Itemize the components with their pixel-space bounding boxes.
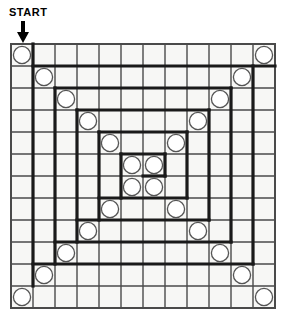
grid-circle-token[interactable] [211,244,228,261]
grid-cell[interactable] [209,176,231,198]
grid-circle-token[interactable] [255,46,272,63]
grid-cell[interactable] [165,110,187,132]
grid-cell[interactable] [121,88,143,110]
grid-cell[interactable] [143,286,165,308]
grid-cell[interactable] [33,110,55,132]
grid-circle-token[interactable] [189,112,206,129]
grid-cell[interactable] [187,242,209,264]
grid-circle-token[interactable] [167,200,184,217]
grid-cell[interactable] [77,286,99,308]
grid-cell[interactable] [55,44,77,66]
grid-circle-token[interactable] [211,90,228,107]
grid-cell[interactable] [209,66,231,88]
grid-cell[interactable] [121,66,143,88]
grid-cell[interactable] [253,132,275,154]
grid-cell[interactable] [55,110,77,132]
grid-cell[interactable] [99,44,121,66]
grid-cell[interactable] [143,198,165,220]
grid-cell[interactable] [33,154,55,176]
grid-cell[interactable] [187,264,209,286]
grid-cell[interactable] [99,220,121,242]
grid-cell[interactable] [55,264,77,286]
grid-cell[interactable] [55,286,77,308]
grid-cell[interactable] [209,154,231,176]
grid-cell[interactable] [165,220,187,242]
grid-circle-token[interactable] [167,134,184,151]
grid-cell[interactable] [99,286,121,308]
grid-circle-token[interactable] [123,156,140,173]
grid-circle-token[interactable] [145,178,162,195]
grid-cell[interactable] [187,154,209,176]
grid-cell[interactable] [231,154,253,176]
grid-circle-token[interactable] [101,134,118,151]
grid-cell[interactable] [165,88,187,110]
grid-cell[interactable] [143,110,165,132]
grid-cell[interactable] [121,286,143,308]
grid-cell[interactable] [253,88,275,110]
grid-cell[interactable] [33,242,55,264]
grid-cell[interactable] [187,198,209,220]
grid-circle-token[interactable] [35,68,52,85]
grid-cell[interactable] [121,198,143,220]
grid-circle-token[interactable] [101,200,118,217]
grid-cell[interactable] [99,242,121,264]
grid-cell[interactable] [187,286,209,308]
grid-cell[interactable] [165,66,187,88]
grid-cell[interactable] [231,176,253,198]
grid-cell[interactable] [253,154,275,176]
grid-cell[interactable] [143,132,165,154]
grid-cell[interactable] [253,264,275,286]
grid-cell[interactable] [121,242,143,264]
grid-cell[interactable] [231,220,253,242]
grid-cell[interactable] [143,264,165,286]
grid-cell[interactable] [55,176,77,198]
grid-circle-token[interactable] [13,288,30,305]
grid-cell[interactable] [231,88,253,110]
grid-circle-token[interactable] [145,156,162,173]
grid-cell[interactable] [11,176,33,198]
grid-cell[interactable] [33,286,55,308]
grid-cell[interactable] [77,66,99,88]
grid-circle-token[interactable] [57,244,74,261]
grid-circle-token[interactable] [233,266,250,283]
grid-circle-token[interactable] [79,112,96,129]
grid-cell[interactable] [231,44,253,66]
grid-cell[interactable] [143,44,165,66]
grid-cell[interactable] [77,264,99,286]
grid-cell[interactable] [121,132,143,154]
grid-cell[interactable] [231,242,253,264]
grid-cell[interactable] [11,242,33,264]
grid-cell[interactable] [55,66,77,88]
grid-cell[interactable] [165,242,187,264]
grid-cell[interactable] [99,88,121,110]
grid-cell[interactable] [55,220,77,242]
grid-cell[interactable] [55,154,77,176]
grid-cell[interactable] [253,66,275,88]
grid-cell[interactable] [99,110,121,132]
grid-cell[interactable] [77,176,99,198]
grid-cell[interactable] [231,198,253,220]
grid-cell[interactable] [11,110,33,132]
grid-cell[interactable] [231,132,253,154]
grid-cell[interactable] [187,44,209,66]
grid-cell[interactable] [33,176,55,198]
grid-cell[interactable] [11,198,33,220]
grid-cell[interactable] [11,88,33,110]
grid-cell[interactable] [209,220,231,242]
grid-cell[interactable] [253,198,275,220]
grid-cell[interactable] [231,110,253,132]
grid-cell[interactable] [77,44,99,66]
grid-cell[interactable] [11,132,33,154]
grid-cell[interactable] [165,264,187,286]
grid-cell[interactable] [11,264,33,286]
grid-cell[interactable] [99,176,121,198]
grid-cell[interactable] [33,88,55,110]
grid-cell[interactable] [77,154,99,176]
grid-cell[interactable] [231,286,253,308]
grid-cell[interactable] [165,286,187,308]
grid-cell[interactable] [253,242,275,264]
grid-cell[interactable] [77,132,99,154]
grid-cell[interactable] [209,264,231,286]
grid-cell[interactable] [121,264,143,286]
grid-circle-token[interactable] [35,266,52,283]
